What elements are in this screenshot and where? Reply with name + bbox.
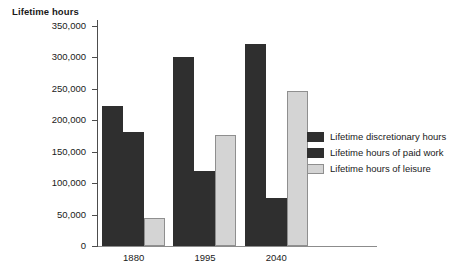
y-axis-tick-label: 300,000 — [16, 52, 86, 62]
bar — [266, 198, 287, 246]
bar-chart: Lifetime hours 050,000100,000150,000200,… — [0, 0, 466, 278]
y-axis-tick-label: 150,000 — [16, 147, 86, 157]
y-axis-title: Lifetime hours — [12, 6, 79, 17]
y-axis-tick-label: 250,000 — [16, 84, 86, 94]
bar — [173, 57, 194, 246]
legend-label: Lifetime discretionary hours — [330, 131, 446, 142]
bar — [287, 91, 308, 246]
x-axis-label-1880: 1880 — [94, 252, 174, 263]
bar — [102, 106, 123, 246]
legend-swatch-icon — [307, 148, 324, 158]
y-axis-tick-label: 0 — [16, 241, 86, 251]
plot-area — [98, 26, 312, 246]
bar-group — [241, 26, 312, 246]
legend-swatch-icon — [307, 164, 324, 174]
legend-label: Lifetime hours of leisure — [330, 163, 431, 174]
x-axis-line — [97, 246, 377, 247]
bar — [144, 218, 165, 246]
x-axis-label-1995: 1995 — [165, 252, 245, 263]
bar — [194, 171, 215, 246]
y-axis-tick-label: 100,000 — [16, 178, 86, 188]
y-axis-tick-label: 50,000 — [16, 210, 86, 220]
legend-label: Lifetime hours of paid work — [330, 147, 444, 158]
bar-group — [169, 26, 240, 246]
x-axis-label-2040: 2040 — [236, 252, 316, 263]
legend-swatch-icon — [307, 132, 324, 142]
y-axis-tick-label: 200,000 — [16, 115, 86, 125]
legend-item: Lifetime hours of paid work — [307, 145, 446, 160]
y-axis-tick — [92, 246, 98, 247]
y-axis-tick-label: 350,000 — [16, 21, 86, 31]
bar — [215, 135, 236, 246]
legend-item: Lifetime discretionary hours — [307, 129, 446, 144]
chart-legend: Lifetime discretionary hoursLifetime hou… — [307, 129, 446, 177]
bar — [245, 44, 266, 246]
bar — [123, 132, 144, 246]
legend-item: Lifetime hours of leisure — [307, 161, 446, 176]
bar-group — [98, 26, 169, 246]
